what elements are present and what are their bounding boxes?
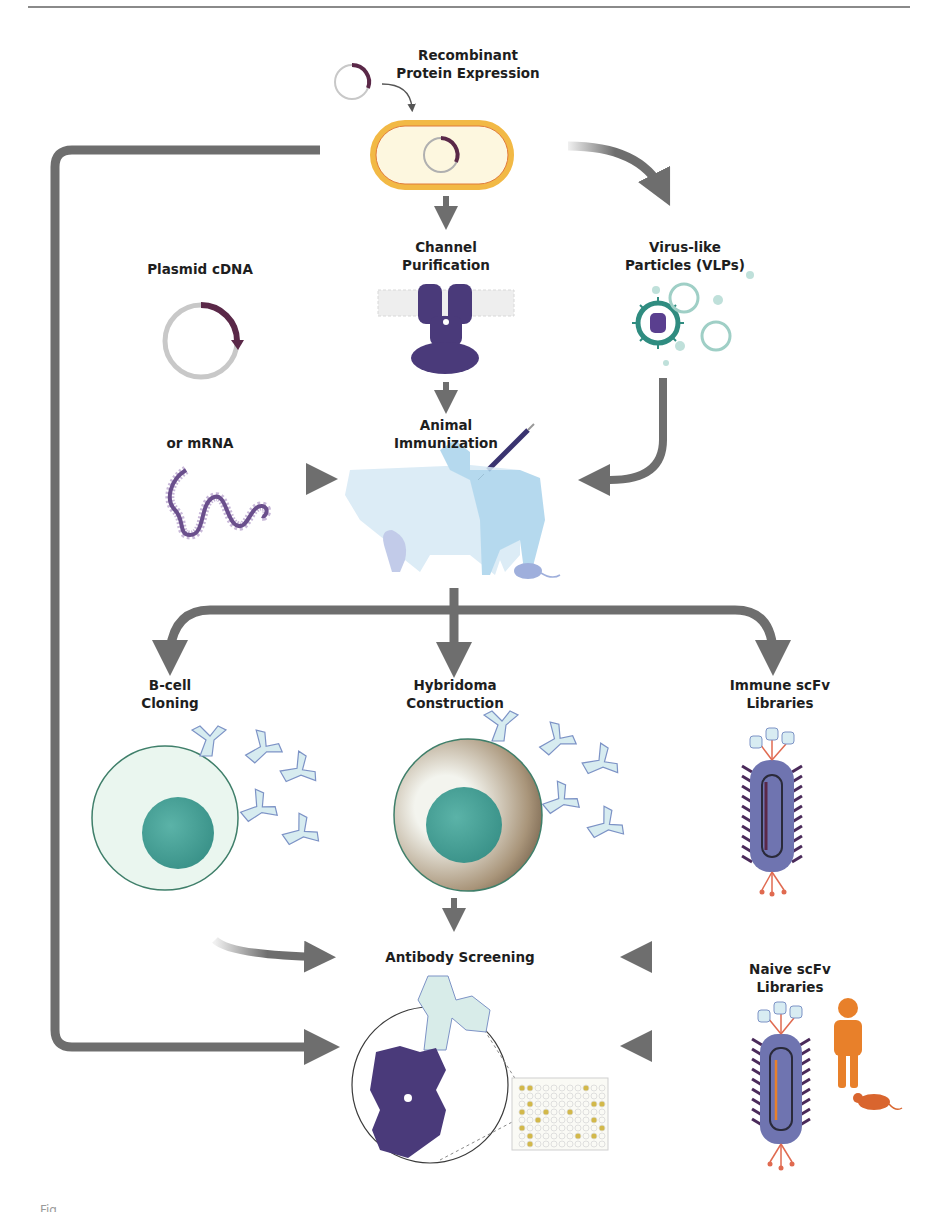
label-animal-immunization: Animal Immunization [376, 416, 516, 452]
animals-silhouette-icon [345, 440, 560, 579]
arrow-plasmid-to-bacterium [382, 84, 412, 108]
workflow-diagram: Recombinant Protein Expression Plasmid c… [0, 0, 939, 1212]
virus-like-particles-icon [632, 271, 754, 366]
ion-channel-icon [378, 284, 514, 374]
arrow-bcell-to-screening [215, 940, 320, 957]
figure-caption-partial: Fig. [40, 1203, 61, 1212]
arrow-vlp-to-immunization [594, 378, 663, 480]
b-cell-icon [92, 746, 238, 890]
arrow-recombinant-to-screening [55, 150, 322, 1047]
label-channel-purification: Channel Purification [376, 238, 516, 274]
label-vlp: Virus-like Particles (VLPs) [610, 238, 760, 274]
arrow-recombinant-to-vlp [568, 146, 662, 190]
mouse-icon [853, 1093, 902, 1110]
bacterium-icon [373, 123, 511, 187]
plasmid-cdna-icon [165, 305, 244, 377]
label-mrna: or mRNA [150, 434, 250, 452]
label-naive-scfv: Naive scFv Libraries [725, 960, 855, 996]
naive-scfv-phage-icon [752, 1002, 810, 1171]
screening-zoom-icon [352, 976, 516, 1163]
label-bcell-cloning: B-cell Cloning [120, 676, 220, 712]
immune-scfv-phage-icon [742, 728, 802, 897]
small-plasmid-icon [335, 65, 369, 99]
arrow-split-to-immune-scfv [454, 610, 773, 658]
arrow-split-to-bcell [170, 610, 454, 658]
label-immune-scfv: Immune scFv Libraries [715, 676, 845, 712]
label-recombinant-expression: Recombinant Protein Expression [388, 46, 548, 82]
well-plate-icon [512, 1078, 608, 1150]
label-hybridoma-construction: Hybridoma Construction [385, 676, 525, 712]
label-antibody-screening: Antibody Screening [380, 948, 540, 966]
label-plasmid-cdna: Plasmid cDNA [130, 260, 270, 278]
hybridoma-icon [394, 739, 542, 891]
mrna-icon [170, 470, 267, 535]
diagram-artwork [0, 0, 939, 1212]
human-figure-icon [834, 998, 862, 1088]
